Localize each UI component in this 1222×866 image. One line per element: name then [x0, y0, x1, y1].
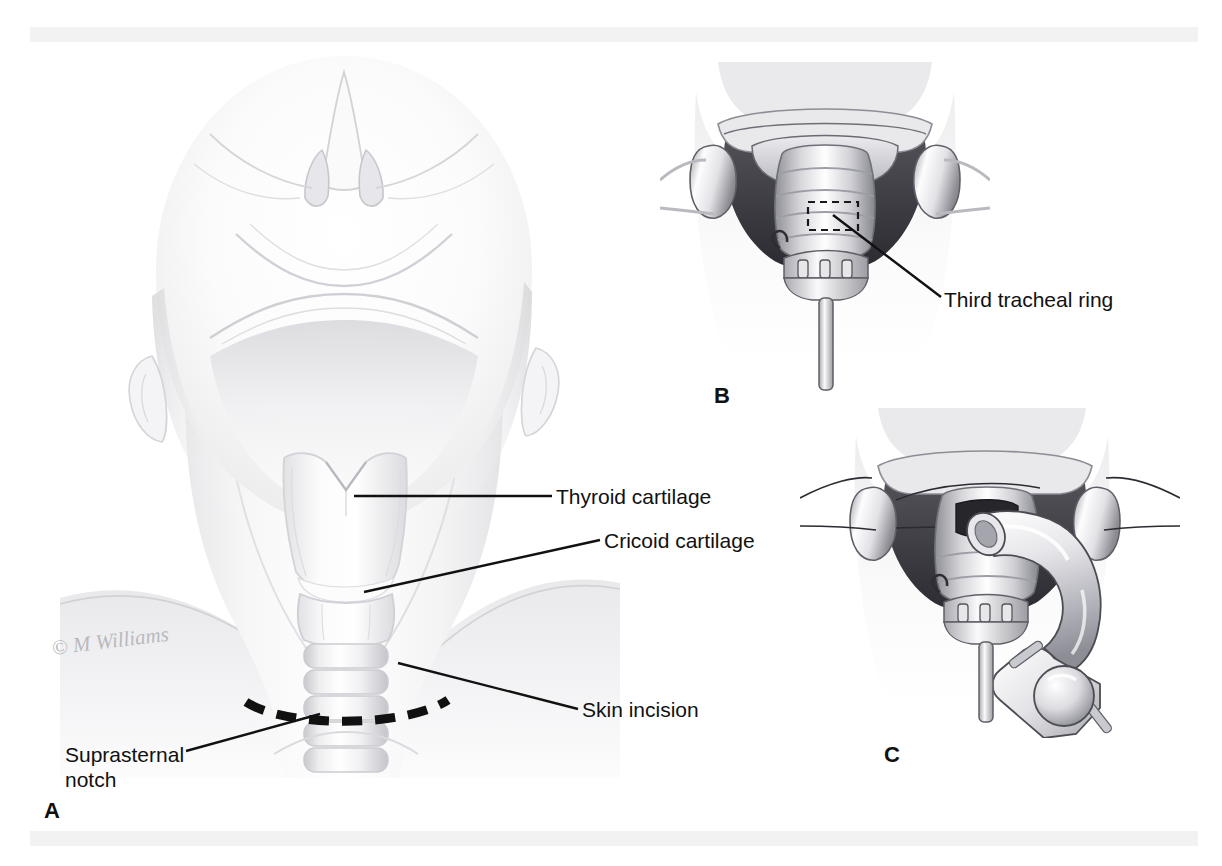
panel-letter-b: B — [714, 383, 730, 409]
label-suprasternal-notch-line2: notch — [65, 768, 116, 791]
panel-c-illustration — [800, 408, 1180, 738]
panel-b-illustration — [660, 62, 990, 392]
right-retractor — [914, 145, 990, 218]
left-retractor — [850, 487, 896, 560]
figure-root: Thyroid cartilage Cricoid cartilage Skin… — [0, 0, 1222, 866]
bottom-page-band — [30, 831, 1198, 846]
panel-letter-a: A — [44, 798, 60, 824]
label-third-tracheal-ring: Third tracheal ring — [944, 287, 1113, 312]
label-suprasternal-notch-line1: Suprasternal — [65, 743, 184, 766]
label-thyroid-cartilage: Thyroid cartilage — [556, 484, 711, 509]
label-skin-incision: Skin incision — [582, 697, 699, 722]
tracheal-rings — [304, 644, 388, 772]
label-suprasternal-notch: Suprasternal notch — [65, 742, 184, 792]
exposed-trachea — [775, 145, 875, 262]
retraction-line-upper-right — [1106, 478, 1180, 498]
label-cricoid-cartilage: Cricoid cartilage — [604, 528, 755, 553]
panel-a-illustration — [60, 38, 620, 778]
left-retractor — [660, 145, 736, 218]
panel-letter-c: C — [884, 742, 900, 768]
